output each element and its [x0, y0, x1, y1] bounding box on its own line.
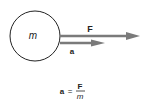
- acceleration-label: a: [70, 47, 75, 56]
- mass-label: m: [29, 30, 37, 41]
- force-arrow-icon: [60, 32, 140, 40]
- equation-denominator: m: [77, 92, 84, 101]
- equation-numerator: F: [78, 82, 83, 91]
- force-label: F: [87, 24, 93, 34]
- equation-lhs: a: [60, 87, 65, 96]
- equation: a = F m: [60, 82, 85, 101]
- newton-second-law-diagram: m F a a = F m: [0, 0, 150, 111]
- acceleration-arrow-icon: [60, 40, 105, 47]
- equation-equals: =: [68, 87, 73, 96]
